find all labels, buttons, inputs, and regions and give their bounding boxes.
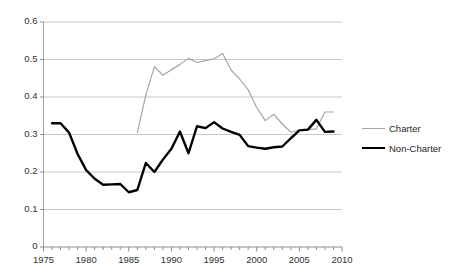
x-tick-label: 2000 [237,254,277,265]
legend-label-non-charter: Non-Charter [389,143,441,154]
x-tick-label: 1980 [66,254,106,265]
series-lines [52,54,333,193]
legend-item-charter: Charter [362,118,460,138]
series-line-non-charter [52,120,333,192]
y-tick-label: 0.6 [4,15,38,26]
x-tick-label: 2005 [279,254,319,265]
chart-legend: Charter Non-Charter [362,118,460,158]
y-tick-label: 0.1 [4,203,38,214]
y-tick-label: 0.3 [4,128,38,139]
y-tick-label: 0 [4,240,38,251]
y-tick-label: 0.5 [4,53,38,64]
legend-line-swatch-charter [362,128,385,129]
gridlines [44,22,343,210]
legend-item-non-charter: Non-Charter [362,138,460,158]
x-tick-label: 1995 [194,254,234,265]
x-tick-label: 1985 [109,254,149,265]
legend-line-swatch-non-charter [362,147,385,149]
x-tick-label: 1990 [151,254,191,265]
line-chart: 00.10.20.30.40.50.6 19751980198519901995… [0,0,462,273]
series-line-charter [137,54,333,133]
legend-label-charter: Charter [389,123,421,134]
x-tick-label: 2010 [322,254,362,265]
y-tick-label: 0.2 [4,165,38,176]
y-tick-label: 0.4 [4,90,38,101]
x-tick-label: 1975 [24,254,64,265]
axis-ticks [40,22,342,252]
